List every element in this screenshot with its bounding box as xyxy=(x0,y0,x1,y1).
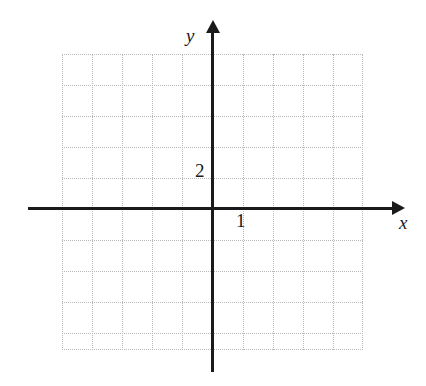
gridline-vertical xyxy=(62,54,63,350)
y-axis-line xyxy=(211,32,214,372)
gridline-vertical xyxy=(182,54,183,350)
y-axis-label: y xyxy=(186,26,194,45)
y-axis-arrow-icon xyxy=(206,20,220,33)
gridline-vertical xyxy=(273,54,274,350)
coordinate-plane-figure: y x 2 1 xyxy=(0,0,426,386)
x-axis-label: x xyxy=(399,213,407,232)
gridline-vertical xyxy=(92,54,93,350)
gridline-vertical xyxy=(362,54,363,350)
gridline-vertical xyxy=(152,54,153,350)
gridline-vertical xyxy=(333,54,334,350)
gridline-vertical xyxy=(303,54,304,350)
gridline-vertical xyxy=(243,54,244,350)
y-tick-label-2: 2 xyxy=(195,161,205,180)
x-tick-label-1: 1 xyxy=(236,211,246,230)
gridline-vertical xyxy=(122,54,123,350)
